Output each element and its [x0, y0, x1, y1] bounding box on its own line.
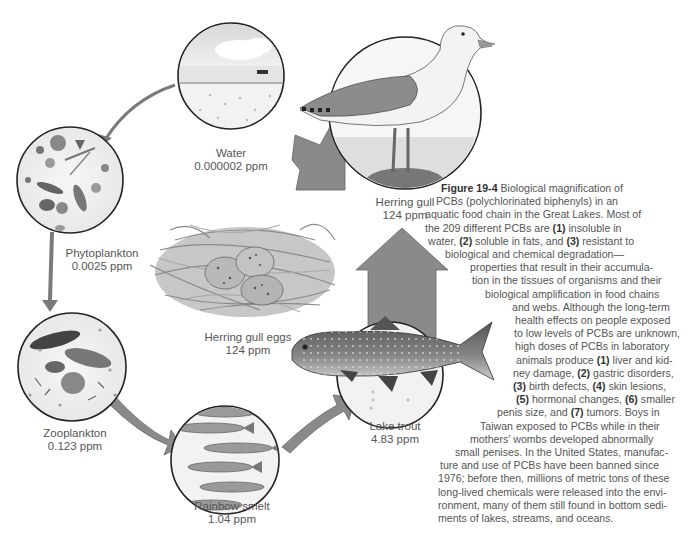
caption-text: aquatic food chain in the Great Lakes. M…: [425, 208, 641, 220]
caption-text: hormonal changes,: [529, 393, 625, 405]
caption-line: high doses of PCBs in laboratory: [515, 340, 669, 353]
caption-line: animals produce (1) liver and kid-: [516, 354, 673, 367]
caption-line: properties that result in their accumula…: [470, 261, 653, 274]
figure-caption: Figure 19-4 Biological magnification ofP…: [0, 0, 699, 544]
caption-line: Figure 19-4 Biological magnification of: [441, 182, 623, 195]
caption-text: and webs. Although the long-term: [512, 301, 670, 313]
caption-text: animals produce: [516, 354, 597, 366]
caption-text: properties that result in their accumula…: [470, 261, 653, 273]
caption-text: tion in the tissues of organisms and the…: [472, 274, 662, 286]
caption-text: to low levels of PCBs are unknown,: [514, 327, 680, 339]
caption-text: health effects on people exposed: [515, 314, 670, 326]
caption-line: tion in the tissues of organisms and the…: [472, 274, 662, 287]
caption-emphasis: (5): [516, 393, 529, 405]
caption-text: 1976; before then, millions of metric to…: [438, 472, 669, 484]
caption-text: smaller: [638, 393, 675, 405]
caption-line: small penises. In the United States, man…: [455, 446, 668, 459]
caption-text: mothers' wombs developed abnormally: [470, 433, 653, 445]
caption-line: to low levels of PCBs are unknown,: [514, 327, 680, 340]
caption-text: ments of lakes, streams, and oceans.: [438, 512, 613, 524]
caption-emphasis: (2): [577, 367, 590, 379]
caption-line: ments of lakes, streams, and oceans.: [438, 512, 613, 525]
caption-text: insoluble in: [566, 222, 622, 234]
caption-emphasis: (3): [566, 235, 579, 247]
caption-line: and webs. Although the long-term: [512, 301, 670, 314]
caption-text: ney damage,: [513, 367, 577, 379]
caption-emphasis: (4): [593, 380, 606, 392]
caption-line: Taiwan exposed to PCBs while in their: [480, 420, 660, 433]
caption-line: ture and use of PCBs have been banned si…: [440, 459, 659, 472]
caption-line: 1976; before then, millions of metric to…: [438, 472, 669, 485]
caption-text: ronment, many of them still found in bot…: [438, 499, 667, 511]
caption-emphasis: (2): [459, 235, 472, 247]
caption-line: the 209 different PCBs are (1) insoluble…: [425, 222, 622, 235]
caption-emphasis: (3): [513, 380, 526, 392]
caption-text: Taiwan exposed to PCBs while in their: [480, 420, 660, 432]
caption-text: penis size, and: [497, 406, 571, 418]
caption-line: ronment, many of them still found in bot…: [438, 499, 667, 512]
caption-text: biological and chemical degradation—: [445, 248, 624, 260]
caption-text: skin lesions,: [605, 380, 666, 392]
caption-line: ney damage, (2) gastric disorders,: [513, 367, 674, 380]
caption-text: small penises. In the United States, man…: [455, 446, 668, 458]
caption-emphasis: (1): [553, 222, 566, 234]
caption-text: soluble in fats, and: [472, 235, 566, 247]
caption-text: high doses of PCBs in laboratory: [515, 340, 669, 352]
caption-text: PCBs (polychlorinated biphenyls) in an: [436, 195, 618, 207]
caption-emphasis: (1): [597, 354, 610, 366]
caption-text: liver and kid-: [610, 354, 673, 366]
caption-text: birth defects,: [526, 380, 593, 392]
caption-emphasis: Figure 19-4: [441, 182, 498, 194]
caption-line: aquatic food chain in the Great Lakes. M…: [425, 208, 641, 221]
caption-text: water,: [428, 235, 459, 247]
caption-line: long-lived chemicals were released into …: [438, 486, 666, 499]
caption-text: long-lived chemicals were released into …: [438, 486, 666, 498]
caption-text: Biological magnification of: [498, 182, 623, 194]
caption-text: resistant to: [579, 235, 634, 247]
caption-text: ture and use of PCBs have been banned si…: [440, 459, 659, 471]
caption-line: (3) birth defects, (4) skin lesions,: [513, 380, 666, 393]
food-chain-diagram: Water 0.000002 ppm Phytoplankton 0.0025 …: [0, 0, 699, 544]
caption-line: PCBs (polychlorinated biphenyls) in an: [436, 195, 618, 208]
caption-text: tumors. Boys in: [584, 406, 660, 418]
caption-emphasis: (6): [625, 393, 638, 405]
caption-text: biological amplification in food chains: [485, 288, 659, 300]
caption-line: water, (2) soluble in fats, and (3) resi…: [428, 235, 634, 248]
caption-line: health effects on people exposed: [515, 314, 670, 327]
caption-line: biological amplification in food chains: [485, 288, 659, 301]
caption-emphasis: (7): [571, 406, 584, 418]
caption-line: (5) hormonal changes, (6) smaller: [516, 393, 675, 406]
caption-text: the 209 different PCBs are: [425, 222, 553, 234]
caption-line: mothers' wombs developed abnormally: [470, 433, 653, 446]
caption-text: gastric disorders,: [590, 367, 674, 379]
caption-line: penis size, and (7) tumors. Boys in: [497, 406, 660, 419]
caption-line: biological and chemical degradation—: [445, 248, 624, 261]
